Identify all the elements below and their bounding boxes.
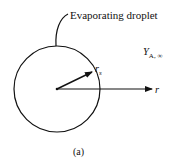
far-field-label-sub: A, ∞ [149, 52, 163, 60]
radial-axis-label: r [155, 84, 160, 95]
radius-arrow [57, 72, 92, 89]
label-leader-line [56, 14, 68, 46]
far-field-label: YA, ∞ [143, 46, 162, 60]
droplet-diagram: Evaporating droplet YA, ∞ rs r (a) [0, 0, 177, 165]
figure-caption: (a) [73, 146, 84, 158]
radius-label-sub: s [99, 69, 102, 77]
radius-label: rs [95, 63, 102, 77]
evaporating-droplet-label: Evaporating droplet [70, 9, 158, 21]
